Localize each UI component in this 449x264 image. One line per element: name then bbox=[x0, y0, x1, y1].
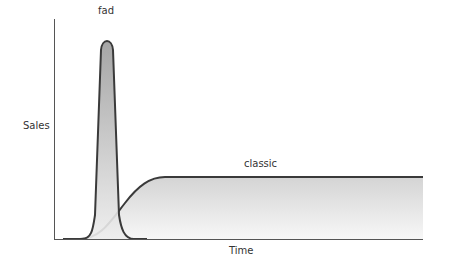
product-lifecycle-chart bbox=[0, 0, 449, 264]
y-axis-label: Sales bbox=[23, 120, 50, 131]
fad-label: fad bbox=[98, 5, 114, 16]
x-axis-label: Time bbox=[229, 245, 253, 256]
classic-label: classic bbox=[244, 158, 277, 169]
